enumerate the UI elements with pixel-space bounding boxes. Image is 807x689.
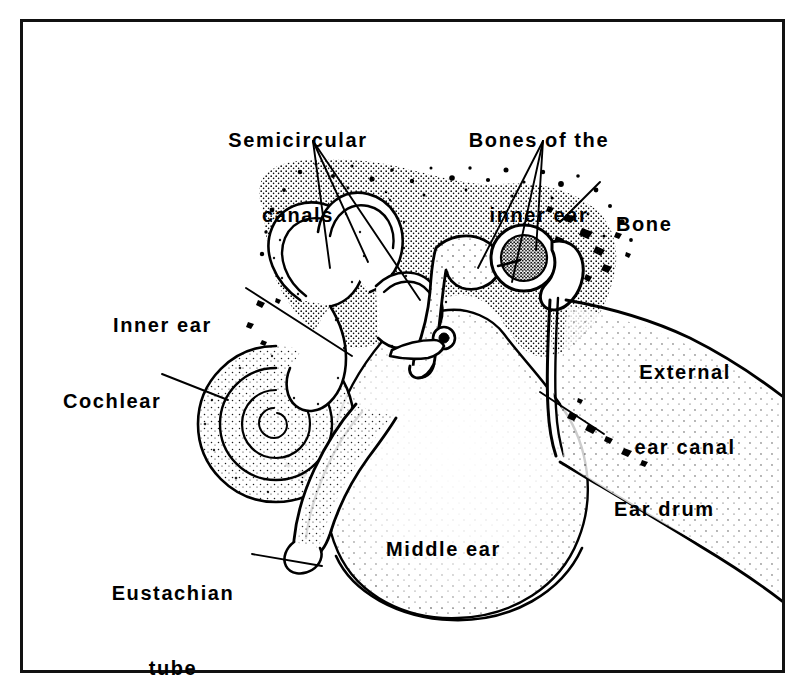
label-bone: Bone [616,162,672,287]
label-eustachian-tube: Eustachian tube [88,531,258,689]
label-line-1: Bone [616,212,672,237]
label-line-2: canals [186,203,410,228]
label-cochlear: Cochlear [63,339,161,464]
label-line-1: Semicircular [186,128,410,153]
label-line-1: Ear drum [614,497,715,522]
label-line-1: Inner ear [113,313,212,338]
label-line-1: Middle ear [386,537,501,562]
label-line-1: Bones of the [444,128,634,153]
label-line-1: Eustachian [88,581,258,606]
figure-canvas: Semicircular canals Bones of the inner e… [0,0,807,689]
label-line-1: Cochlear [63,389,161,414]
label-middle-ear: Middle ear [386,487,501,612]
caption-fragment [24,681,444,689]
label-line-2: tube [88,656,258,681]
label-line-2: inner ear [444,203,634,228]
label-bones-of-the-inner-ear: Bones of the inner ear [444,78,634,278]
label-semicircular-canals: Semicircular canals [186,78,410,278]
label-line-1: External [600,360,770,385]
label-ear-drum: Ear drum [614,447,715,572]
